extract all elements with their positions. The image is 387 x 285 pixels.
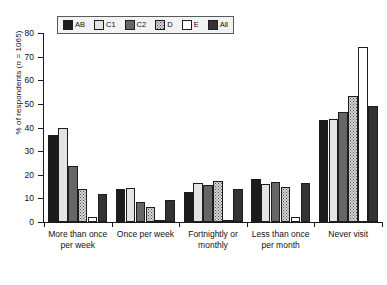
- bar-ab-5: [319, 120, 329, 222]
- bar-e-3: [223, 220, 233, 222]
- bar-ab-2: [116, 189, 126, 222]
- swatch-solid-black-icon: [63, 20, 73, 30]
- bar-all-5: [368, 106, 378, 222]
- x-tick-mark: [247, 222, 248, 227]
- bar-group: [251, 33, 310, 222]
- swatch-dotted-icon: [155, 20, 165, 30]
- x-axis-label-line1: Never visit: [306, 229, 387, 240]
- bar-all-4: [301, 183, 311, 222]
- y-tick-label: 50: [0, 99, 34, 109]
- bar-d-5: [348, 96, 358, 222]
- x-tick-mark: [382, 222, 383, 227]
- bar-e-5: [358, 47, 368, 222]
- y-tick-label: 20: [0, 170, 34, 180]
- swatch-dark-gray-icon: [125, 20, 135, 30]
- y-tick-label: 70: [0, 52, 34, 62]
- bar-c1-5: [329, 119, 339, 222]
- y-tick-label: 80: [0, 28, 34, 38]
- legend: ABC1C2DEAll: [57, 16, 234, 34]
- bar-ab-1: [48, 135, 58, 222]
- bar-c2-4: [271, 182, 281, 222]
- bar-d-3: [213, 181, 223, 222]
- bar-all-3: [233, 189, 243, 222]
- bar-group: [48, 33, 107, 222]
- plot-area: [44, 33, 382, 222]
- legend-item-label: E: [194, 20, 199, 30]
- swatch-white-icon: [182, 20, 192, 30]
- y-tick-label: 60: [0, 75, 34, 85]
- x-tick-mark: [314, 222, 315, 227]
- legend-item-c1: C1: [94, 20, 116, 30]
- x-tick-mark: [44, 222, 45, 227]
- legend-item-label: AB: [75, 20, 85, 30]
- bar-group: [184, 33, 243, 222]
- swatch-dark-dotted-icon: [208, 20, 218, 30]
- legend-item-e: E: [182, 20, 199, 30]
- legend-item-label: C2: [137, 20, 147, 30]
- swatch-light-gray-icon: [94, 20, 104, 30]
- bar-e-4: [291, 217, 301, 222]
- bar-group: [319, 33, 378, 222]
- bar-group: [116, 33, 175, 222]
- bar-chart: % of respondents (n = 1065) 807060504030…: [0, 0, 387, 285]
- x-axis-line: [43, 222, 382, 223]
- legend-item-all: All: [208, 20, 228, 30]
- bar-e-2: [155, 220, 165, 222]
- bar-all-1: [98, 194, 108, 222]
- y-tick-label: 40: [0, 123, 34, 133]
- legend-item-c2: C2: [125, 20, 147, 30]
- bar-c1-2: [126, 188, 136, 222]
- y-tick-label: 30: [0, 146, 34, 156]
- x-axis-label-5: Never visit: [306, 229, 387, 240]
- bar-c2-2: [136, 202, 146, 222]
- x-axis-label-line2: per week: [36, 240, 120, 251]
- bar-c2-3: [203, 185, 213, 222]
- legend-item-label: D: [167, 20, 172, 30]
- bar-c2-1: [68, 166, 78, 222]
- y-tick-label: 0: [0, 217, 34, 227]
- x-tick-mark: [179, 222, 180, 227]
- bar-d-4: [281, 187, 291, 222]
- x-tick-mark: [112, 222, 113, 227]
- y-tick-label: 10: [0, 193, 34, 203]
- bar-c2-5: [338, 112, 348, 222]
- bar-all-2: [165, 200, 175, 222]
- bar-ab-3: [184, 192, 194, 222]
- legend-item-label: All: [220, 20, 228, 30]
- bar-c1-3: [193, 183, 203, 222]
- bar-e-1: [88, 217, 98, 222]
- bar-d-2: [146, 207, 156, 222]
- legend-item-ab: AB: [63, 20, 85, 30]
- legend-item-d: D: [155, 20, 172, 30]
- legend-item-label: C1: [106, 20, 116, 30]
- bar-c1-1: [58, 128, 68, 223]
- bar-d-1: [78, 189, 88, 222]
- x-axis-label-line2: per month: [239, 240, 323, 251]
- bar-ab-4: [251, 179, 261, 222]
- bar-c1-4: [261, 184, 271, 222]
